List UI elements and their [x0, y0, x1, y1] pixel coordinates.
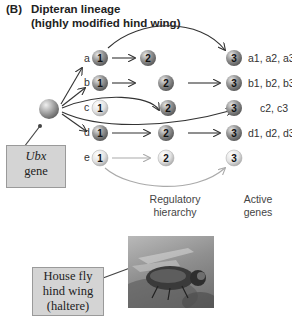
- arrow-e1-e3: [105, 168, 225, 186]
- svg-text:2: 2: [163, 153, 169, 164]
- house-fly-photo: [128, 236, 214, 308]
- house-fly-hind-wing-box: House fly hind wing (haltere): [32, 267, 104, 316]
- connector-dot: [38, 124, 42, 128]
- regulatory-hierarchy-caption: Regulatory hierarchy: [140, 193, 210, 219]
- ubx-protein-hub: [39, 99, 59, 119]
- svg-text:3: 3: [231, 53, 237, 64]
- row-label-e: e: [84, 151, 90, 163]
- svg-text:2: 2: [145, 53, 151, 64]
- active-genes-a: a1, a2, a3: [248, 52, 292, 64]
- active-genes-b: b1, b2, b3: [248, 77, 292, 89]
- active-genes-caption: Active genes: [236, 193, 280, 219]
- ubx-label: Ubx: [7, 149, 65, 164]
- hub-to-c2-arrow: [62, 97, 159, 110]
- active-genes-c: c2, c3: [260, 102, 288, 114]
- svg-text:3: 3: [231, 153, 237, 164]
- svg-text:1: 1: [97, 153, 103, 164]
- active-genes-d: d1, d2, d3: [248, 127, 292, 139]
- photo-connector: [103, 268, 130, 278]
- svg-text:1: 1: [97, 128, 103, 139]
- row-label-c: c: [84, 101, 89, 113]
- row-label-a: a: [84, 52, 90, 64]
- svg-text:1: 1: [97, 78, 103, 89]
- svg-text:1: 1: [97, 53, 103, 64]
- gene-label: gene: [7, 164, 65, 179]
- arrow-a1-a3: [108, 26, 225, 50]
- ubx-gene-box: Ubx gene: [6, 145, 66, 188]
- svg-text:3: 3: [231, 103, 237, 114]
- row-label-b: b: [84, 76, 90, 88]
- ubx-connector: [24, 126, 40, 147]
- svg-text:3: 3: [231, 128, 237, 139]
- svg-text:2: 2: [165, 103, 171, 114]
- svg-text:1: 1: [97, 103, 103, 114]
- svg-text:2: 2: [163, 78, 169, 89]
- svg-text:2: 2: [163, 128, 169, 139]
- svg-text:3: 3: [231, 78, 237, 89]
- row-label-d: d: [84, 126, 90, 138]
